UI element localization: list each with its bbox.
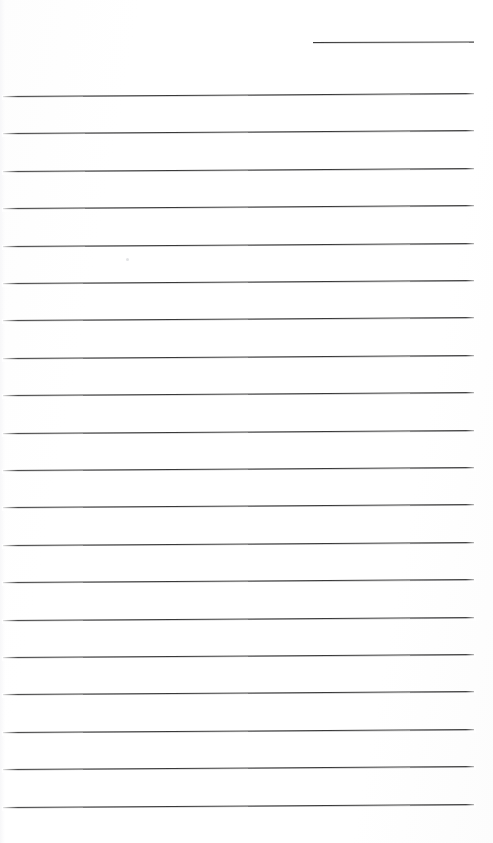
scan-speck <box>126 258 129 261</box>
bottom-margin-area <box>0 813 493 843</box>
scanned-page <box>0 0 493 843</box>
paper-surface <box>0 0 493 843</box>
